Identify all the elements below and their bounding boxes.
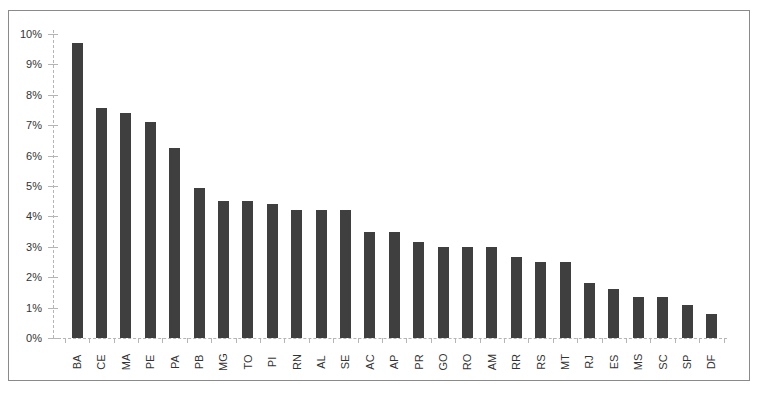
y-tick-label: 10%: [10, 28, 42, 40]
x-tick-label: RO: [460, 347, 474, 377]
y-tick-label: 2%: [10, 271, 42, 283]
bar-al: [316, 210, 327, 338]
x-axis: [53, 338, 727, 339]
y-axis: [53, 30, 54, 338]
x-tick-label: PB: [192, 347, 206, 377]
bar-mg: [218, 201, 229, 338]
y-tick-label: 1%: [10, 302, 42, 314]
x-tick-label: SP: [680, 347, 694, 377]
x-tick-label: AP: [387, 347, 401, 377]
bar-pi: [267, 204, 278, 338]
bar-ba: [72, 43, 83, 338]
y-tick-label: 3%: [10, 241, 42, 253]
x-tick-label: MA: [119, 347, 133, 377]
y-tick-label: 6%: [10, 150, 42, 162]
x-tick-label: RJ: [582, 347, 596, 377]
x-tick-label: AL: [314, 347, 328, 377]
bar-ro: [462, 247, 473, 338]
x-tick-label: RS: [534, 347, 548, 377]
bar-se: [340, 210, 351, 338]
y-tick-label: 4%: [10, 210, 42, 222]
x-tick-label: RN: [290, 347, 304, 377]
x-tick-label: PR: [412, 347, 426, 377]
bar-rj: [584, 283, 595, 338]
x-tick-label: ES: [607, 347, 621, 377]
x-tick-label: PE: [143, 347, 157, 377]
bar-to: [242, 201, 253, 338]
y-tick-label: 5%: [10, 180, 42, 192]
y-tick-label: 9%: [10, 58, 42, 70]
bar-rn: [291, 210, 302, 338]
y-tick-label: 0%: [10, 332, 42, 344]
x-tick-label: AM: [485, 347, 499, 377]
bar-pe: [145, 122, 156, 338]
x-tick-label: MS: [631, 347, 645, 377]
x-tick-label: GO: [436, 347, 450, 377]
bar-ap: [389, 232, 400, 338]
x-tick-label: PA: [168, 347, 182, 377]
bar-ac: [364, 232, 375, 338]
x-tick-label: TO: [241, 347, 255, 377]
bar-mt: [560, 262, 571, 338]
bar-pb: [194, 188, 205, 338]
x-tick-label: AC: [363, 347, 377, 377]
bar-am: [486, 247, 497, 338]
bar-sp: [682, 305, 693, 338]
x-tick-label: MG: [216, 347, 230, 377]
x-tick-label: SC: [656, 347, 670, 377]
bar-es: [608, 289, 619, 338]
bar-rr: [511, 257, 522, 338]
bar-pa: [169, 148, 180, 338]
bar-ma: [120, 113, 131, 338]
y-tick-label: 8%: [10, 89, 42, 101]
bar-ms: [633, 297, 644, 338]
bar-go: [438, 247, 449, 338]
x-tick-label: RR: [509, 347, 523, 377]
bar-sc: [657, 297, 668, 338]
x-tick-label: MT: [558, 347, 572, 377]
bar-ce: [96, 108, 107, 338]
x-tick-label: PI: [265, 347, 279, 377]
x-tick-label: DF: [704, 347, 718, 377]
bar-df: [706, 314, 717, 338]
x-tick-label: SE: [338, 347, 352, 377]
y-tick-label: 7%: [10, 119, 42, 131]
bar-rs: [535, 262, 546, 338]
x-tick-label: BA: [70, 347, 84, 377]
bar-pr: [413, 242, 424, 338]
x-tick-label: CE: [94, 347, 108, 377]
